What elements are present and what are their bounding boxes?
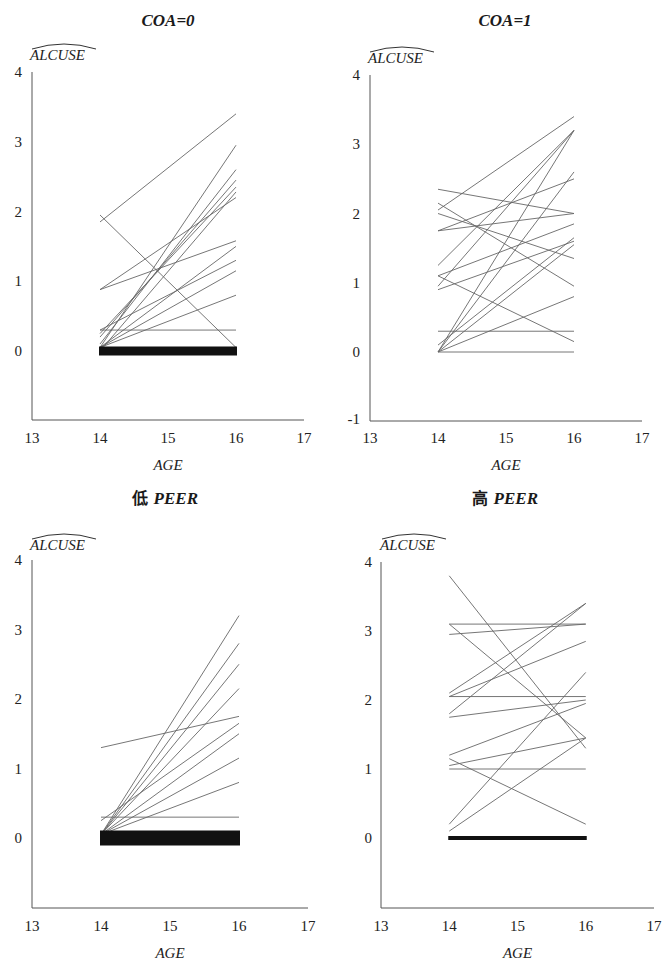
y-tick-label: 4 (365, 554, 373, 570)
x-axis-label: AGE (152, 457, 182, 473)
trajectory-line (100, 145, 236, 347)
trajectory-line (100, 246, 236, 347)
trajectory-line (438, 130, 574, 286)
panel-title: COA=1 (478, 11, 531, 30)
zero-trajectory-cluster (99, 347, 237, 356)
y-tick-label: 0 (15, 343, 23, 359)
trajectory-line (100, 180, 236, 337)
trajectory-line (449, 700, 586, 717)
trajectory-line (449, 603, 586, 713)
y-tick-label: 3 (15, 622, 23, 638)
x-tick-label: 16 (229, 430, 245, 446)
trajectory-line (449, 624, 586, 738)
x-tick-label: 14 (93, 430, 109, 446)
zero-trajectory-cluster (100, 831, 240, 846)
y-tick-label: 2 (15, 691, 23, 707)
y-tick-label: 0 (353, 344, 361, 360)
x-tick-label: 14 (94, 918, 110, 934)
trajectory-line (101, 616, 239, 835)
trajectory-line (438, 276, 574, 342)
trajectory-line (438, 214, 574, 259)
trajectory-line (101, 643, 239, 834)
trajectory-line (438, 238, 574, 345)
x-tick-label: 15 (499, 430, 514, 446)
y-tick-label: 4 (15, 552, 23, 568)
trajectory-line (449, 641, 586, 696)
y-tick-label: 4 (15, 64, 23, 80)
x-tick-label: 16 (567, 430, 583, 446)
x-tick-label: 13 (25, 918, 40, 934)
y-tick-label: 2 (15, 204, 23, 220)
y-axis-label: ALCUSE (29, 537, 85, 553)
panel-2: COA=1ALCUSE-1012341314151617AGE (348, 11, 651, 473)
trajectory-line (438, 172, 574, 352)
x-tick-label: 15 (161, 430, 176, 446)
x-tick-label: 17 (301, 918, 317, 934)
y-axis-label: ALCUSE (367, 50, 423, 66)
x-tick-label: 17 (647, 918, 663, 934)
trajectory-line (438, 245, 574, 352)
panel-4: 高 PEERALCUSE012341314151617AGE (365, 489, 663, 961)
trajectory-line (438, 189, 574, 213)
panel-3: 低 PEERALCUSE012341314151617AGE (15, 489, 317, 961)
x-tick-label: 13 (363, 430, 378, 446)
x-tick-label: 13 (374, 918, 389, 934)
y-tick-label: -1 (348, 411, 361, 427)
y-axis-label: ALCUSE (29, 47, 85, 63)
panel-title: 高 PEER (472, 489, 538, 508)
trajectory-line (100, 295, 236, 347)
figure-canvas: COA=0ALCUSE012341314151617AGECOA=1ALCUSE… (0, 0, 669, 972)
x-axis-label: AGE (502, 945, 532, 961)
trajectory-line (101, 716, 239, 747)
y-tick-label: 3 (15, 134, 23, 150)
x-tick-label: 15 (510, 918, 525, 934)
trajectory-line (438, 224, 574, 276)
panel-1: COA=0ALCUSE012341314151617AGE (15, 11, 313, 473)
y-tick-label: 1 (365, 761, 373, 777)
y-tick-label: 0 (365, 830, 373, 846)
trajectory-line (449, 576, 586, 749)
trajectory-line (438, 179, 574, 231)
trajectory-line (449, 672, 586, 824)
y-tick-label: 2 (353, 206, 361, 222)
x-tick-label: 17 (297, 430, 313, 446)
x-axis-label: AGE (154, 945, 184, 961)
y-tick-label: 2 (365, 692, 373, 708)
x-tick-label: 14 (431, 430, 447, 446)
trajectory-line (101, 689, 239, 835)
y-axis-label: ALCUSE (379, 537, 435, 553)
panel-title: COA=0 (141, 11, 195, 30)
x-tick-label: 14 (442, 918, 458, 934)
x-tick-label: 17 (635, 430, 651, 446)
trajectory-line (100, 187, 236, 333)
trajectory-line (100, 114, 236, 222)
x-tick-label: 13 (25, 430, 40, 446)
trajectory-line (100, 198, 236, 290)
y-tick-label: 1 (353, 275, 361, 291)
x-tick-label: 16 (578, 918, 594, 934)
x-tick-label: 16 (232, 918, 248, 934)
trajectory-line (101, 758, 239, 834)
y-tick-label: 1 (15, 273, 23, 289)
x-axis-label: AGE (490, 457, 520, 473)
trajectory-line (449, 603, 586, 693)
zero-trajectory-cluster (448, 836, 587, 840)
y-tick-label: 0 (15, 830, 23, 846)
trajectory-line (449, 759, 586, 825)
x-tick-label: 15 (163, 918, 178, 934)
trajectory-line (438, 241, 574, 289)
y-tick-label: 3 (365, 623, 373, 639)
y-tick-label: 4 (353, 67, 361, 83)
panel-title: 低 PEER (131, 489, 198, 508)
trajectory-line (449, 703, 586, 755)
trajectory-line (100, 260, 236, 330)
y-tick-label: 1 (15, 761, 23, 777)
y-tick-label: 3 (353, 136, 361, 152)
trajectory-line (449, 624, 586, 634)
